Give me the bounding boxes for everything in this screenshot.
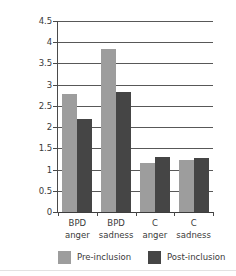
- bar[interactable]: [77, 119, 92, 212]
- legend-label: Pre-inclusion: [77, 253, 131, 262]
- bar[interactable]: [179, 160, 194, 212]
- bar-group: [140, 21, 170, 212]
- bar-group: [101, 21, 131, 212]
- chart-legend: Pre-inclusionPost-inclusion: [0, 250, 236, 266]
- y-tick-label: 0: [6, 208, 52, 217]
- x-axis-label: Canger: [136, 218, 175, 241]
- x-axis-labels: BPDangerBPDsadnessCangerCsadness: [58, 218, 213, 250]
- x-axis-label-line2: sadness: [174, 230, 213, 242]
- bar[interactable]: [116, 92, 131, 212]
- x-axis-label-line2: anger: [136, 230, 175, 242]
- legend-swatch-icon: [148, 251, 161, 264]
- x-tick-mark: [213, 212, 214, 216]
- y-tick-label: 4: [6, 38, 52, 47]
- x-axis-label-line2: anger: [58, 230, 97, 242]
- x-axis-label: Csadness: [174, 218, 213, 241]
- bar[interactable]: [194, 158, 209, 212]
- x-axis-label: BPDanger: [58, 218, 97, 241]
- x-axis-label-line2: sadness: [97, 230, 136, 242]
- y-axis: 00.511.522.533.544.5: [0, 0, 52, 276]
- y-tick-label: 4.5: [6, 17, 52, 26]
- bar-group: [179, 21, 209, 212]
- bar[interactable]: [140, 163, 155, 212]
- bar-group: [62, 21, 92, 212]
- x-tick-mark: [174, 212, 175, 216]
- x-axis-label-line1: C: [174, 218, 213, 230]
- x-tick-mark: [97, 212, 98, 216]
- y-tick-label: 0.5: [6, 187, 52, 196]
- y-tick-label: 2.5: [6, 102, 52, 111]
- bar-chart-figure: 00.511.522.533.544.5 BPDangerBPDsadnessC…: [0, 0, 236, 276]
- plot-area: [58, 21, 213, 212]
- bar[interactable]: [62, 94, 77, 212]
- bottom-divider: [0, 270, 236, 271]
- x-tick-mark: [58, 212, 59, 216]
- y-tick-label: 1.5: [6, 144, 52, 153]
- y-tick-label: 1: [6, 166, 52, 175]
- x-axis-label-line1: BPD: [58, 218, 97, 230]
- x-axis-label-line1: C: [136, 218, 175, 230]
- legend-swatch-icon: [58, 251, 71, 264]
- legend-label: Post-inclusion: [167, 253, 225, 262]
- x-axis-label: BPDsadness: [97, 218, 136, 241]
- bar[interactable]: [101, 49, 116, 212]
- y-tick-label: 3: [6, 81, 52, 90]
- x-axis-label-line1: BPD: [97, 218, 136, 230]
- y-tick-label: 3.5: [6, 59, 52, 68]
- legend-item[interactable]: Pre-inclusion: [58, 250, 131, 264]
- y-tick-label: 2: [6, 123, 52, 132]
- bar[interactable]: [155, 157, 170, 212]
- x-tick-mark: [136, 212, 137, 216]
- legend-item[interactable]: Post-inclusion: [148, 250, 225, 264]
